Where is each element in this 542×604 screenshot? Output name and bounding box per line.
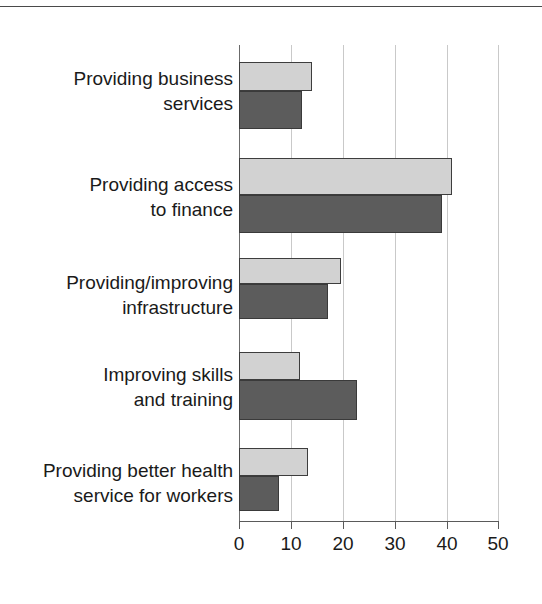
bar-series2-cat3 — [239, 380, 357, 420]
gridline-40 — [447, 45, 448, 521]
plot-area: Providing business services Providing ac… — [0, 0, 542, 604]
xtick-mark-40 — [447, 521, 448, 529]
bar-series2-cat4 — [239, 476, 279, 511]
bar-series1-cat1 — [239, 158, 452, 195]
x-axis-line — [239, 521, 499, 522]
xtick-label-40: 40 — [427, 533, 467, 555]
xtick-label-50: 50 — [478, 533, 518, 555]
bar-series1-cat2 — [239, 258, 341, 284]
category-label-providing-access-to-finance: Providing access to finance — [0, 172, 233, 222]
bar-series1-cat0 — [239, 62, 312, 91]
bar-series2-cat0 — [239, 91, 302, 129]
xtick-mark-30 — [395, 521, 396, 529]
gridline-30 — [395, 45, 396, 521]
xtick-mark-10 — [291, 521, 292, 529]
xtick-label-10: 10 — [271, 533, 311, 555]
xtick-label-0: 0 — [219, 533, 259, 555]
xtick-mark-20 — [343, 521, 344, 529]
category-label-improving-skills-and-training: Improving skills and training — [0, 362, 233, 412]
gridline-50 — [498, 45, 499, 521]
xtick-mark-50 — [498, 521, 499, 529]
bar-series2-cat2 — [239, 284, 328, 319]
xtick-label-30: 30 — [375, 533, 415, 555]
bar-series2-cat1 — [239, 195, 442, 233]
bar-series1-cat4 — [239, 448, 308, 476]
xtick-mark-0 — [239, 521, 240, 529]
bar-series1-cat3 — [239, 352, 300, 380]
category-label-providing-improving-infrastructure: Providing/improving infrastructure — [0, 270, 233, 320]
xtick-label-20: 20 — [323, 533, 363, 555]
gridline-20 — [343, 45, 344, 521]
category-label-providing-business-services: Providing business services — [0, 66, 233, 116]
chart-figure: Providing business services Providing ac… — [0, 0, 542, 604]
category-label-providing-better-health-service: Providing better health service for work… — [0, 458, 233, 508]
